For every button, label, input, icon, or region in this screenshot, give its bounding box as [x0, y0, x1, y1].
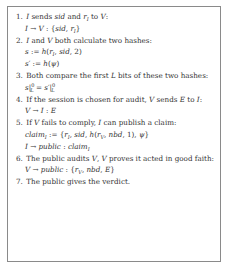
step-1-text: I sends sid and rI to V:	[26, 12, 108, 21]
step-6-text: The public audits V, V proves it acted i…	[26, 154, 214, 163]
step-6-formula: V → public : {rV, nbd, E}	[16, 164, 216, 176]
step-5-text: If V fails to comply, I can publish a cl…	[26, 118, 176, 127]
step-7: 7. The public gives the verdict.	[16, 176, 216, 188]
step-7-text: The public gives the verdict.	[26, 177, 130, 186]
step-2-formula-2: s′ := h(ψ)	[16, 58, 216, 70]
step-1-formula: I → V : {sid, rI}	[16, 23, 216, 35]
step-2: 2. I and V both calculate two hashes:	[16, 35, 216, 47]
step-4: 4. If the session is chosen for audit, V…	[16, 94, 216, 106]
step-1: 1. I sends sid and rI to V:	[16, 11, 216, 23]
step-3: 3. Both compare the first L bits of thes…	[16, 70, 216, 82]
step-4-formula: V → I : E	[16, 105, 216, 117]
step-5: 5. If V fails to comply, I can publish a…	[16, 117, 216, 129]
step-4-text: If the session is chosen for audit, V se…	[26, 95, 202, 104]
step-2-formula-1: s := h(rI, sid, 2)	[16, 46, 216, 58]
protocol-figure-box: 1. I sends sid and rI to V: I → V : {sid…	[7, 6, 221, 262]
protocol-steps: 1. I sends sid and rI to V: I → V : {sid…	[16, 11, 216, 188]
step-5-formula-2: I → public : claimI	[16, 141, 216, 153]
step-5-formula-1: claimI := {rI, sid, h(rV, nbd, 1), ψ}	[16, 129, 216, 141]
step-2-text: I and V both calculate two hashes:	[26, 36, 152, 45]
step-3-formula: s|0L = s′|0L	[16, 82, 216, 94]
step-6: 6. The public audits V, V proves it acte…	[16, 153, 216, 165]
step-3-text: Both compare the first L bits of these t…	[26, 71, 208, 80]
